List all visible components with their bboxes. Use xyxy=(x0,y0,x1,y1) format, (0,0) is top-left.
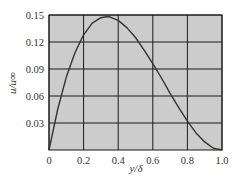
y-tick-label: 0.15 xyxy=(26,10,44,21)
y-tick-label: 0.12 xyxy=(26,37,44,48)
y-tick-labels: 0.030.060.090.120.15 xyxy=(26,10,44,129)
x-tick-label: 0 xyxy=(46,155,51,166)
plot-area xyxy=(49,15,222,150)
y-tick-label: 0.06 xyxy=(26,91,44,102)
x-tick-label: 1.0 xyxy=(215,155,228,166)
x-tick-label: 0.2 xyxy=(77,155,90,166)
y-axis-label: u/u∞ xyxy=(6,72,18,94)
chart: 0.030.060.090.120.15 00.20.40.60.81.0 y/… xyxy=(0,0,240,187)
x-tick-label: 0.4 xyxy=(112,155,126,166)
y-tick-label: 0.09 xyxy=(26,64,44,75)
x-tick-label: 0.8 xyxy=(181,155,194,166)
plot-background xyxy=(49,15,222,150)
x-tick-label: 0.6 xyxy=(146,155,159,166)
x-axis-label: y/δ xyxy=(128,162,143,174)
y-tick-label: 0.03 xyxy=(26,118,44,129)
